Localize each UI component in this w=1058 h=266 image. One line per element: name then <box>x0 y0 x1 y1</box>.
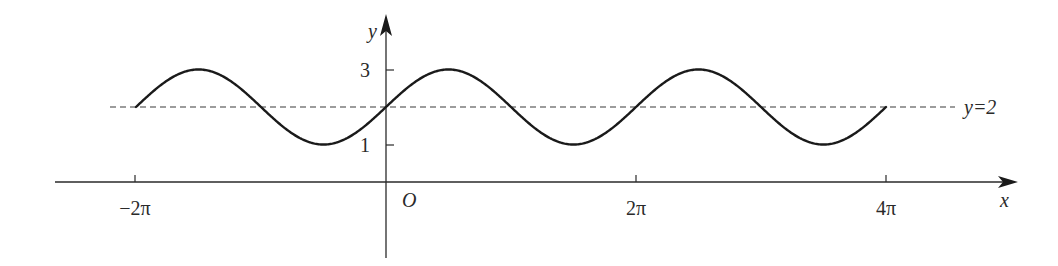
x-tick-label-2pi: 2π <box>626 197 646 219</box>
x-tick-label-neg2pi: −2π <box>119 197 150 219</box>
y-tick-label-1: 1 <box>360 134 370 156</box>
y-tick-label-3: 3 <box>360 59 370 81</box>
x-axis-label: x <box>999 189 1009 211</box>
origin-label: O <box>402 189 416 211</box>
x-tick-label-4pi: 4π <box>876 197 896 219</box>
sine-graph: −2π 2π 4π 1 3 O y x y=2 <box>0 0 1058 266</box>
reference-line-label: y=2 <box>962 96 996 119</box>
y-axis-label: y <box>366 20 377 43</box>
